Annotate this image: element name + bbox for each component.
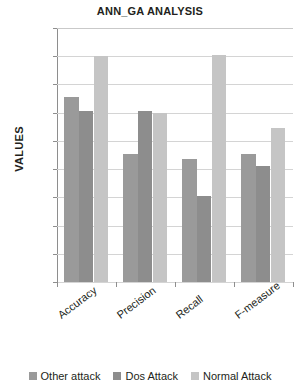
x-axis-label-precision: Precision <box>114 284 157 321</box>
x-axis-tick-mark <box>175 282 176 287</box>
legend-item-dos-attack[interactable]: Dos Attack <box>113 370 178 382</box>
y-axis-tick-mark <box>53 113 57 114</box>
legend-swatch-icon <box>113 372 121 380</box>
x-axis-label-recall: Recall <box>173 293 205 321</box>
gridline <box>57 84 293 85</box>
x-axis-label-f-measure: F-measure <box>232 279 282 321</box>
x-axis-tick-mark <box>116 282 117 287</box>
bar-accuracy-other-attack <box>64 97 78 282</box>
legend-label: Other attack <box>41 370 101 382</box>
bar-f-measure-other-attack <box>241 154 255 282</box>
y-axis-tick-mark <box>53 254 57 255</box>
bar-recall-other-attack <box>182 159 196 282</box>
gridline <box>57 56 293 57</box>
bar-f-measure-dos-attack <box>256 166 270 282</box>
bar-accuracy-normal-attack <box>94 56 108 282</box>
y-axis-tick-mark <box>53 28 57 29</box>
legend-label: Dos Attack <box>125 370 178 382</box>
y-axis-tick-mark <box>53 141 57 142</box>
y-axis-title: VALUES <box>13 109 25 189</box>
x-axis-tick-mark <box>57 282 58 287</box>
bar-recall-normal-attack <box>212 55 226 282</box>
y-axis-tick-mark <box>53 226 57 227</box>
gridline <box>57 28 293 29</box>
bar-precision-normal-attack <box>153 113 167 282</box>
bar-accuracy-dos-attack <box>79 111 93 282</box>
bar-precision-other-attack <box>123 154 137 282</box>
legend-label: Normal Attack <box>203 370 271 382</box>
y-axis-tick-mark <box>53 197 57 198</box>
bar-f-measure-normal-attack <box>271 128 285 282</box>
legend-swatch-icon <box>191 372 199 380</box>
chart-legend: Other attackDos AttackNormal Attack <box>0 370 300 382</box>
bar-precision-dos-attack <box>138 111 152 282</box>
x-axis-tick-mark <box>234 282 235 287</box>
y-axis-tick-mark <box>53 56 57 57</box>
legend-swatch-icon <box>29 372 37 380</box>
x-axis-label-accuracy: Accuracy <box>55 284 98 321</box>
legend-item-normal-attack[interactable]: Normal Attack <box>191 370 271 382</box>
bar-recall-dos-attack <box>197 196 211 282</box>
y-axis-tick-mark <box>53 84 57 85</box>
chart-container: ANN_GA ANALYSIS VALUES 96949290888684828… <box>0 0 300 392</box>
plot-area <box>57 28 293 282</box>
legend-item-other-attack[interactable]: Other attack <box>29 370 101 382</box>
y-axis-tick-mark <box>53 169 57 170</box>
x-axis-tick-mark <box>293 282 294 287</box>
chart-title: ANN_GA ANALYSIS <box>0 5 300 17</box>
